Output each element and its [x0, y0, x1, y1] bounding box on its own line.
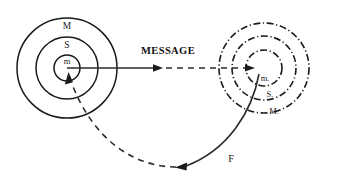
right-system-group: m. S. M. [219, 23, 309, 116]
message-arrowhead-mid [153, 64, 163, 72]
message-arrow-group: MESSAGE [67, 45, 255, 71]
feedback-label-F: F [228, 153, 234, 164]
left-label-M: M [63, 21, 72, 31]
feedback-curve-dashed [72, 84, 176, 167]
message-feedback-diagram: M S m m. S. M. MESSAGE [0, 0, 337, 184]
right-ring-middle-S [232, 36, 296, 100]
message-arrowhead-end [245, 64, 255, 71]
message-label: MESSAGE [141, 45, 195, 56]
right-label-S: S. [267, 89, 274, 99]
left-label-m: m [64, 56, 71, 66]
feedback-arrowhead-left [175, 163, 187, 171]
feedback-curve-solid [186, 74, 259, 166]
right-label-m: m. [261, 73, 270, 83]
left-label-S: S [64, 40, 69, 50]
right-label-M: M. [269, 106, 279, 116]
diagram-canvas-container: M S m m. S. M. MESSAGE [0, 0, 337, 184]
feedback-arrowhead-up [65, 72, 73, 85]
feedback-arrow-group: F [65, 72, 259, 171]
